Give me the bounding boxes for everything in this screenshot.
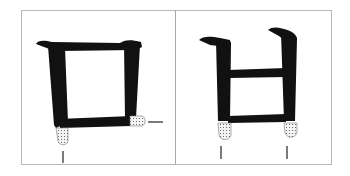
right-glyph-middle-stroke bbox=[228, 68, 286, 78]
left-highlight-corner-tip bbox=[130, 116, 145, 126]
left-glyph bbox=[36, 40, 163, 163]
right-glyph bbox=[199, 27, 297, 159]
right-highlight-left-tip bbox=[218, 123, 231, 140]
calligraphy-diagram bbox=[0, 0, 350, 176]
right-glyph-left-stroke bbox=[216, 41, 231, 121]
left-glyph-right-stroke bbox=[124, 44, 140, 122]
right-highlight-right-tip bbox=[284, 123, 297, 137]
left-highlight-stroke-tip bbox=[56, 128, 68, 145]
left-glyph-bottom-stroke bbox=[58, 116, 132, 128]
left-glyph-left-stroke bbox=[48, 46, 68, 128]
right-glyph-bottom-stroke bbox=[228, 114, 286, 123]
